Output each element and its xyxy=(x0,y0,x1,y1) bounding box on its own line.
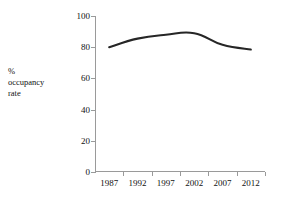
y-axis-title-line-1: % xyxy=(8,66,66,77)
x-tick-label-1987: 1987 xyxy=(100,179,118,188)
x-tick-6 xyxy=(265,172,266,176)
y-axis-title: % occupancy rate xyxy=(8,66,66,99)
x-tick-5 xyxy=(237,172,238,176)
x-tick-label-1997: 1997 xyxy=(157,179,175,188)
y-tick-label-80: 80 xyxy=(81,43,90,52)
series-occupancy-rate xyxy=(95,16,265,172)
x-tick-1 xyxy=(123,172,124,176)
series-line-path xyxy=(109,32,251,49)
y-axis-title-line-2: occupancy xyxy=(8,77,66,88)
x-tick-label-2012: 2012 xyxy=(242,179,260,188)
y-tick-label-60: 60 xyxy=(81,74,90,83)
x-tick-label-1992: 1992 xyxy=(129,179,147,188)
x-tick-label-2007: 2007 xyxy=(214,179,232,188)
x-tick-2 xyxy=(152,172,153,176)
y-tick-label-100: 100 xyxy=(77,12,91,21)
y-tick-label-0: 0 xyxy=(86,168,91,177)
y-tick-label-20: 20 xyxy=(81,136,90,145)
x-tick-3 xyxy=(180,172,181,176)
y-axis-title-line-3: rate xyxy=(8,88,66,99)
y-tick-0 xyxy=(91,172,95,173)
plot-area: 020406080100 198719921997200220072012 xyxy=(95,16,265,172)
occupancy-rate-line-chart: % occupancy rate 020406080100 1987199219… xyxy=(0,0,283,200)
x-tick-label-2002: 2002 xyxy=(185,179,203,188)
y-tick-label-40: 40 xyxy=(81,105,90,114)
x-tick-4 xyxy=(208,172,209,176)
